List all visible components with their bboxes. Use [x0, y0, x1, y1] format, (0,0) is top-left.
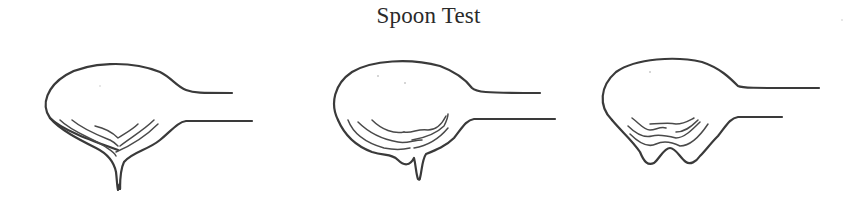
speck — [649, 71, 651, 73]
spoon-2-left-side — [338, 120, 420, 180]
spoon-2-bowl-bottom — [420, 119, 555, 178]
spoon-1-illustration — [46, 64, 252, 190]
spoon-3-illustration — [603, 59, 819, 164]
speck — [377, 75, 379, 77]
spoon-2-illustration — [334, 61, 555, 179]
speck — [841, 19, 843, 21]
spoon-illustrations — [0, 0, 857, 199]
spoon-2-bowl-top — [334, 61, 540, 120]
speck — [404, 82, 406, 84]
speck — [99, 85, 101, 87]
spoon-3-bowl-top — [603, 59, 819, 120]
